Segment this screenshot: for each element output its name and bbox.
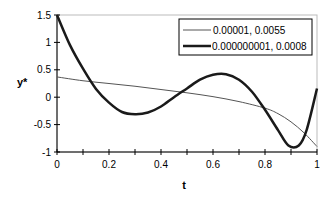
legend: 0.00001, 0.0055 0.000000001, 0.0008 xyxy=(179,19,312,55)
y-tick-label: -1 xyxy=(42,147,51,158)
y-tick-label: 1 xyxy=(45,37,51,48)
x-tick-label: 1 xyxy=(314,159,320,170)
x-tick-label: 0.2 xyxy=(102,159,116,170)
y-axis-ticks: 1.510.50-0.5-1 xyxy=(34,10,60,158)
x-tick-label: 0.4 xyxy=(154,159,168,170)
y-tick-label: -0.5 xyxy=(34,119,52,130)
x-tick-label: 0 xyxy=(54,159,60,170)
y-tick-label: 1.5 xyxy=(37,10,51,21)
legend-label-series-2: 0.000000001, 0.0008 xyxy=(212,41,307,52)
y-tick-label: 0 xyxy=(45,92,51,103)
x-tick-label: 0.8 xyxy=(258,159,272,170)
legend-label-series-1: 0.00001, 0.0055 xyxy=(213,25,286,36)
x-tick-label: 0.6 xyxy=(206,159,220,170)
line-chart: 1.510.50-0.5-1 00.20.40.60.81 y* t 0.000… xyxy=(0,0,335,202)
x-axis-label: t xyxy=(182,179,186,191)
y-tick-label: 0.5 xyxy=(37,64,51,75)
y-axis-label: y* xyxy=(17,76,28,88)
